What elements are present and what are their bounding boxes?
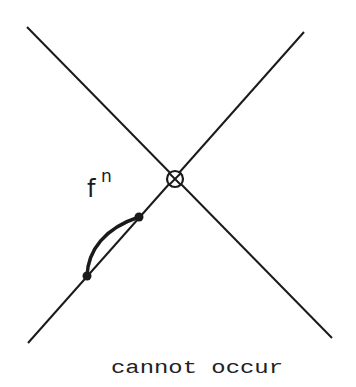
orbit-point-lower [83, 272, 92, 281]
fixed-point-icon [167, 171, 183, 187]
map-label-superscript: n [101, 166, 112, 186]
map-label-f: f [87, 175, 96, 203]
orbit-point-upper [135, 213, 144, 222]
diagram-canvas: f n cannot occur [0, 0, 356, 387]
unstable-manifold-line [28, 32, 304, 343]
caption: cannot occur [111, 357, 283, 379]
